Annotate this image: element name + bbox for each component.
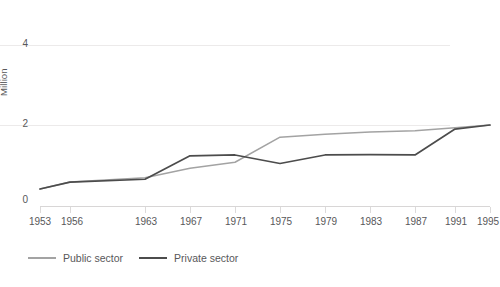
legend-item-private-sector[interactable]: Private sector [139,252,238,264]
public-sector-swatch-icon [28,257,56,259]
series-layer [0,0,500,287]
private-sector-swatch-icon [139,257,167,259]
public-sector-line [40,125,490,189]
line-chart: Million 4 2 0 1953 1956 1963 1967 1971 1… [0,0,500,287]
legend-item-public-sector[interactable]: Public sector [28,252,123,264]
legend-label-public-sector: Public sector [63,252,123,264]
legend: Public sector Private sector [28,252,238,264]
legend-label-private-sector: Private sector [174,252,238,264]
